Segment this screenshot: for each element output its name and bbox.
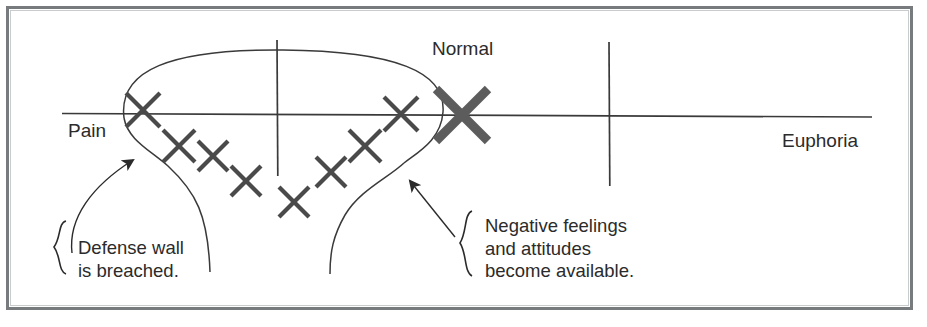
axis-tick-right	[609, 42, 610, 186]
data-mark	[279, 187, 309, 217]
defense-wall-brace	[54, 221, 66, 274]
figure-canvas: Pain Euphoria Normal Defense wallis brea…	[0, 0, 927, 327]
callout-line: Negative feelings	[485, 215, 627, 236]
data-mark	[384, 97, 418, 131]
defense-wall-callout-text: Defense wallis breached.	[78, 237, 184, 282]
data-mark	[349, 130, 381, 162]
callout-line: is breached.	[78, 260, 179, 281]
negative-feelings-leader-line[interactable]	[410, 181, 455, 237]
data-mark	[126, 93, 160, 127]
axis-label-euphoria: Euphoria	[782, 130, 858, 152]
data-mark	[198, 141, 228, 171]
axis-label-pain: Pain	[68, 120, 106, 142]
data-mark-group	[126, 93, 418, 217]
axis-tick-left	[277, 40, 278, 176]
callout-line: become available.	[485, 260, 634, 281]
negative-feelings-brace	[460, 211, 472, 276]
negative-feelings-callout-text: Negative feelingsand attitudesbecome ava…	[485, 215, 634, 283]
callout-line: Defense wall	[78, 237, 184, 258]
callout-line: and attitudes	[485, 238, 591, 259]
data-mark	[163, 130, 195, 162]
normal-marker-label: Normal	[432, 38, 493, 60]
data-mark	[231, 166, 261, 196]
data-mark	[316, 157, 346, 187]
